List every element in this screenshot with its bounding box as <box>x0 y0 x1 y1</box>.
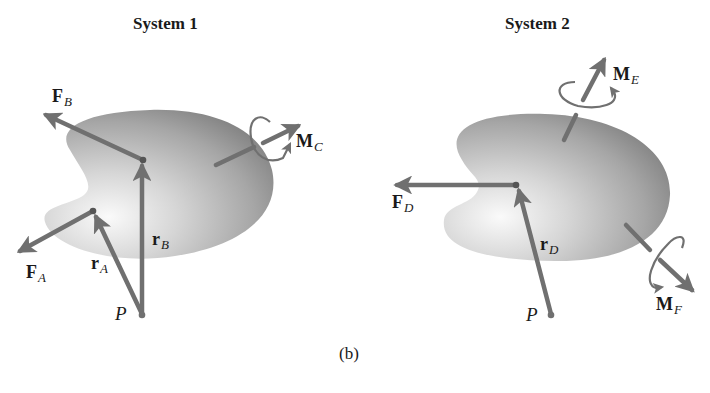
diagram-canvas <box>0 0 710 393</box>
label-me: ME <box>613 65 639 83</box>
label-point-p-2: P <box>526 305 538 324</box>
moment-mf-arrow <box>660 260 692 290</box>
label-fa: FA <box>26 263 46 281</box>
label-ra: rA <box>91 254 108 272</box>
label-fb: FB <box>52 87 72 105</box>
moment-me-arrow <box>583 60 604 100</box>
label-rd: rD <box>540 235 558 253</box>
label-fd: FD <box>392 193 413 211</box>
moment-mc-arrow <box>263 126 298 143</box>
figure-caption: (b) <box>339 344 359 364</box>
label-mc: MC <box>296 132 323 150</box>
label-mf: MF <box>656 295 682 313</box>
label-point-p-1: P <box>115 304 127 323</box>
label-rb: rB <box>152 230 169 248</box>
